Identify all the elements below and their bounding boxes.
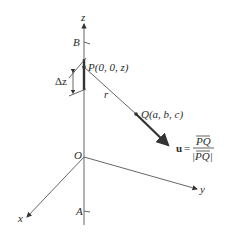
origin-label: O <box>74 149 82 161</box>
delta-z-bracket-bottom <box>69 89 86 96</box>
r-line <box>84 67 136 114</box>
u-denominator: |PQ| <box>192 150 213 162</box>
b-label: B <box>73 36 80 48</box>
y-axis-label: y <box>199 183 205 195</box>
q-label: Q(a, b, c) <box>141 108 183 121</box>
p-label: P(0, 0, z) <box>87 61 129 74</box>
z-axis-label: z <box>80 11 86 23</box>
y-axis <box>84 157 197 189</box>
b-tick <box>84 42 90 44</box>
r-label: r <box>104 88 109 100</box>
delta-z-label: Δz <box>55 75 67 87</box>
u-numerator: PQ <box>195 135 211 147</box>
a-label: A <box>75 205 83 217</box>
line-charge-diagram: z B Δz P(0, 0, z) r Q(a, b, c) u = PQ |P… <box>0 0 227 239</box>
u-symbol: u <box>176 142 182 154</box>
u-equals: = <box>184 142 190 154</box>
x-axis-label: x <box>17 212 23 224</box>
a-tick <box>84 211 90 212</box>
